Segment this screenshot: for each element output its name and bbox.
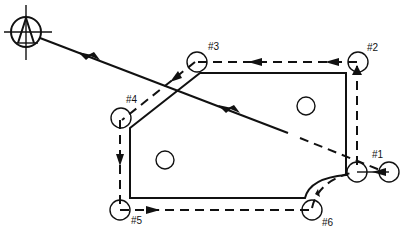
tool-position-1 [347, 162, 399, 182]
toolpath-diagram: #1 #2 #3 #4 #5 #6 [0, 0, 409, 231]
position-label-2: #2 [367, 42, 379, 53]
part-hole-left [156, 151, 174, 169]
position-label-3: #3 [208, 41, 220, 52]
path-3-to-4 [122, 62, 195, 120]
position-label-1: #1 [372, 149, 384, 160]
position-label-6: #6 [322, 217, 334, 228]
rapid-path-approach-dashed [300, 138, 380, 170]
part-hole-right [297, 97, 315, 115]
part-outline [130, 73, 346, 198]
position-label-4: #4 [126, 94, 138, 105]
program-zero-target-icon [4, 5, 52, 60]
position-label-5: #5 [131, 215, 143, 226]
